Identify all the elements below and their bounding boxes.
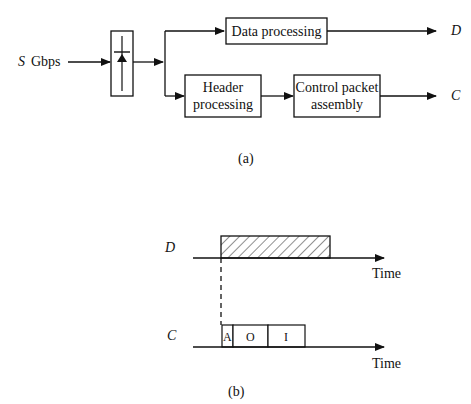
field-o: O <box>246 329 255 345</box>
row-d-label: D <box>165 240 175 256</box>
header-line2: processing <box>193 96 253 113</box>
field-a: A <box>223 329 232 345</box>
caption-b: (b) <box>228 384 244 400</box>
row-c-label: C <box>167 328 176 344</box>
input-rate-unit: Gbps <box>31 54 61 70</box>
caption-a: (a) <box>238 151 254 167</box>
control-line1: Control packet <box>296 79 379 96</box>
input-rate-variable: S <box>18 54 25 70</box>
control-packet-label: Control packet assembly <box>294 75 380 117</box>
control-packet-block <box>222 325 305 347</box>
splitter-box <box>111 31 133 96</box>
header-processing-label: Header processing <box>185 75 261 117</box>
data-processing-text: Data processing <box>232 23 322 40</box>
row-d-axis-label: Time <box>372 266 401 282</box>
diagram-canvas <box>0 0 471 404</box>
output-d-label: D <box>451 23 461 39</box>
data-processing-label: Data processing <box>226 18 327 44</box>
field-i: I <box>284 329 288 345</box>
control-line2: assembly <box>311 96 363 113</box>
output-c-label: C <box>451 88 460 104</box>
header-line1: Header <box>203 79 243 96</box>
data-burst-block <box>221 236 330 258</box>
row-c-axis-label: Time <box>372 356 401 372</box>
